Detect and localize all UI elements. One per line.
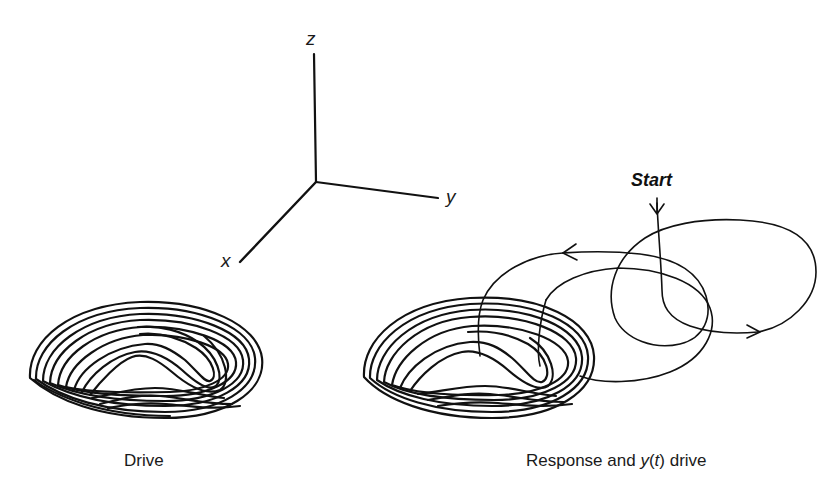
attractor-figure	[0, 0, 840, 496]
caption-text-post: drive	[665, 451, 707, 470]
z-axis	[314, 54, 316, 182]
arrow-start-head	[650, 198, 664, 214]
caption-text-pre: Response and	[526, 451, 640, 470]
caption-var-y: y	[640, 451, 649, 470]
arrow-right-head	[747, 325, 760, 338]
drive-attractor	[30, 302, 262, 418]
y-axis	[316, 182, 438, 198]
z-axis-label: z	[306, 28, 316, 50]
axes-triad	[240, 54, 438, 262]
response-trajectory	[478, 198, 816, 382]
start-label: Start	[631, 170, 672, 191]
drive-caption: Drive	[124, 451, 164, 471]
x-axis-label: x	[221, 250, 231, 272]
x-axis	[240, 182, 316, 262]
response-caption: Response and y(t) drive	[526, 451, 707, 471]
y-axis-label: y	[446, 186, 456, 208]
